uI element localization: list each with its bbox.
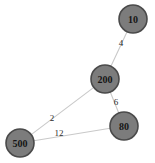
graph-diagram: 46212 1020080500: [0, 0, 155, 163]
graph-edge-500-80: [34, 128, 110, 140]
edge-weight-label-200-500: 2: [50, 113, 55, 123]
graph-edge-200-10: [111, 32, 127, 67]
edge-weight-label-200-80: 6: [114, 97, 119, 107]
graph-node-80[interactable]: 80: [110, 112, 138, 140]
edge-weight-label-200-10: 4: [119, 38, 124, 48]
graph-node-500[interactable]: 500: [6, 129, 34, 157]
node-label-200: 200: [98, 74, 113, 85]
node-label-80: 80: [119, 121, 129, 132]
graph-node-200[interactable]: 200: [91, 65, 119, 93]
graph-node-10[interactable]: 10: [119, 5, 147, 33]
graph-canvas-svg: 46212 1020080500: [0, 0, 155, 163]
edge-weight-label-500-80: 12: [55, 128, 64, 138]
node-label-500: 500: [13, 138, 28, 149]
node-label-10: 10: [128, 14, 138, 25]
